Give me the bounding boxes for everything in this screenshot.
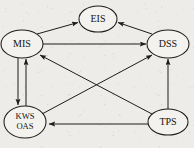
node-mis-label: MIS bbox=[13, 38, 31, 49]
node-mis[interactable]: MIS bbox=[1, 30, 43, 58]
node-eis[interactable]: EIS bbox=[79, 6, 117, 32]
directed-graph: MIS EIS DSS KWS OAS TPS bbox=[0, 0, 194, 148]
node-dss-label: DSS bbox=[159, 38, 177, 49]
node-layer: MIS EIS DSS KWS OAS TPS bbox=[1, 6, 189, 138]
node-dss[interactable]: DSS bbox=[147, 30, 189, 58]
node-kws-oas-label-line1: KWS bbox=[15, 111, 34, 121]
node-eis-label: EIS bbox=[91, 13, 106, 24]
diagram-canvas: MIS EIS DSS KWS OAS TPS bbox=[0, 0, 194, 148]
node-tps-label: TPS bbox=[159, 116, 176, 127]
node-kws-oas[interactable]: KWS OAS bbox=[4, 106, 46, 138]
edge-mis-to-eis bbox=[37, 23, 78, 35]
edge-dss-to-eis bbox=[118, 23, 152, 35]
node-tps[interactable]: TPS bbox=[148, 109, 188, 135]
node-kws-oas-label-line2: OAS bbox=[16, 121, 33, 131]
